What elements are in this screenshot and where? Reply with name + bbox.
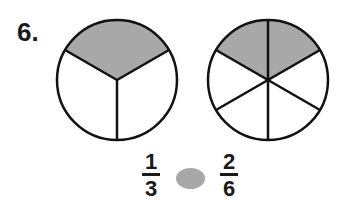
left-numerator: 1 [140, 151, 162, 172]
left-denominator: 3 [140, 178, 162, 200]
fraction-circles [0, 0, 342, 203]
right-circle-sixths [208, 20, 328, 140]
left-circle-thirds [57, 20, 177, 140]
right-fraction: 2 6 [218, 151, 240, 200]
right-denominator: 6 [218, 178, 240, 200]
comparison-blank[interactable] [176, 168, 205, 189]
left-fraction: 1 3 [140, 151, 162, 200]
right-numerator: 2 [218, 151, 240, 172]
